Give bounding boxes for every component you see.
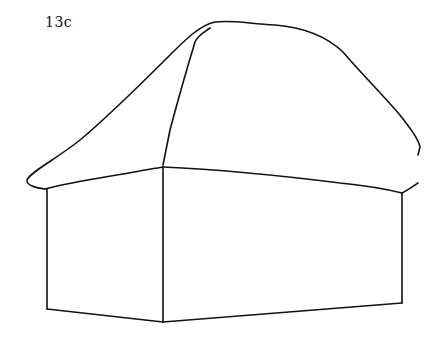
roof-eave-right xyxy=(163,167,418,193)
base-right xyxy=(163,303,402,322)
roof-hip-line xyxy=(163,28,210,165)
base-left xyxy=(47,309,163,322)
roof-outline xyxy=(27,21,420,189)
house-drawing xyxy=(0,0,445,343)
roof-eave-left xyxy=(45,167,163,189)
